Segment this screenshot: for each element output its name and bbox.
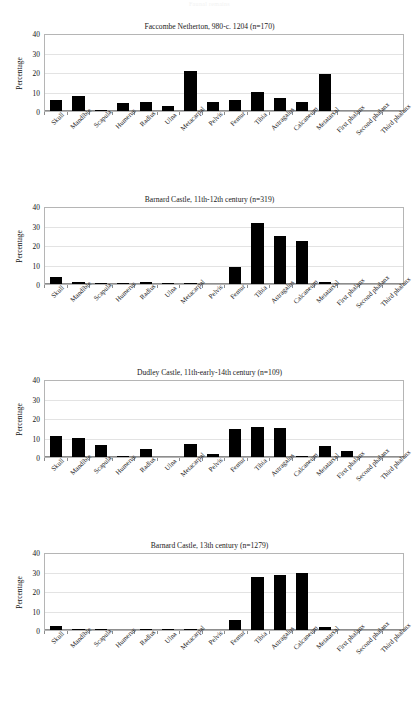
bar [296, 241, 308, 284]
x-label-slot: Ulna [157, 288, 180, 341]
plot-row: Percentage010203040SkullMandibleScapulaH… [0, 553, 419, 635]
bar-slot [112, 381, 134, 457]
bar [50, 100, 62, 111]
bar-slot [291, 35, 313, 111]
x-label-slot: Radius [134, 634, 157, 687]
bar-slot [336, 381, 358, 457]
bar [319, 446, 331, 457]
x-label-slot: Calcaneum [292, 461, 315, 514]
bar-slot [224, 381, 246, 457]
bar-slot [381, 208, 403, 284]
x-label-slot: Humerus [112, 634, 135, 687]
chart-block-3: Barnard Castle, 13th century (n=1279)Per… [0, 541, 419, 635]
bar [296, 102, 308, 112]
bar-slot [336, 554, 358, 630]
x-label-slot: Metatarsal [314, 115, 337, 168]
bar [207, 102, 219, 111]
x-label-slot: Pelvis [202, 461, 225, 514]
bar-slot [90, 35, 112, 111]
bar [50, 436, 62, 457]
bar-slot [314, 35, 336, 111]
x-label-slot: Ulna [157, 461, 180, 514]
chart-title: Dudley Castle, 11th-early-14th century (… [0, 368, 419, 378]
x-label-slot: Second phalanx [359, 115, 382, 168]
bar-series [45, 208, 403, 284]
bar [184, 444, 196, 457]
bar-slot [224, 554, 246, 630]
bar [319, 74, 331, 111]
x-label-slot: Skull [44, 288, 67, 341]
bar-slot [90, 208, 112, 284]
x-axis-labels: SkullMandibleScapulaHumerusRadiusUlnaMet… [44, 461, 404, 514]
bar-slot [112, 554, 134, 630]
y-tick-label: 0 [36, 282, 40, 289]
x-label-slot: Ulna [157, 634, 180, 687]
bar-slot [135, 381, 157, 457]
x-axis: SkullMandibleScapulaHumerusRadiusUlnaMet… [44, 112, 404, 168]
y-tick-label: 30 [33, 223, 40, 230]
bar-slot [45, 554, 67, 630]
plot-row: Percentage010203040SkullMandibleScapulaH… [0, 207, 419, 289]
x-label-slot: Femur [224, 634, 247, 687]
y-tick-label: 30 [33, 569, 40, 576]
x-label-slot: Tibia [247, 288, 270, 341]
plot-area [44, 207, 404, 285]
y-tick-label: 20 [33, 243, 40, 250]
bar [341, 451, 353, 457]
y-tick-label: 10 [33, 608, 40, 615]
x-label-slot: Calcaneum [292, 115, 315, 168]
chart-title: Barnard Castle, 13th century (n=1279) [0, 541, 419, 551]
bar [274, 236, 286, 284]
plot-row: Percentage010203040SkullMandibleScapulaH… [0, 380, 419, 462]
bar-slot [314, 208, 336, 284]
x-axis-labels: SkullMandibleScapulaHumerusRadiusUlnaMet… [44, 115, 404, 168]
x-axis: SkullMandibleScapulaHumerusRadiusUlnaMet… [44, 458, 404, 514]
x-label-slot: Metacarpal [179, 288, 202, 341]
y-tick-label: 30 [33, 50, 40, 57]
bar-slot [381, 381, 403, 457]
x-label-slot: Tibia [247, 461, 270, 514]
bar-slot [157, 381, 179, 457]
y-tick-label: 20 [33, 589, 40, 596]
bar-slot [179, 35, 201, 111]
x-label-slot: Skull [44, 115, 67, 168]
x-label-slot: Femur [224, 115, 247, 168]
bar [229, 267, 241, 284]
bar-slot [381, 35, 403, 111]
y-tick-label: 0 [36, 628, 40, 635]
x-axis-labels: SkullMandibleScapulaHumerusRadiusUlnaMet… [44, 634, 404, 687]
bar [72, 438, 84, 457]
x-label-slot: Humerus [112, 461, 135, 514]
bar-slot [269, 554, 291, 630]
bar [184, 71, 196, 111]
bar-slot [246, 554, 268, 630]
bar-slot [246, 35, 268, 111]
chart-block-0: Faccombe Netherton, 980-c. 1204 (n=170)P… [0, 22, 419, 116]
bar-slot [224, 35, 246, 111]
plot-area [44, 380, 404, 458]
bar [274, 428, 286, 457]
bar-slot [358, 381, 380, 457]
x-label-slot: Humerus [112, 115, 135, 168]
bar-slot [246, 208, 268, 284]
bar-slot [67, 381, 89, 457]
x-label-slot: Scapula [89, 461, 112, 514]
y-tick-label: 0 [36, 455, 40, 462]
bar-slot [135, 35, 157, 111]
bar-slot [179, 554, 201, 630]
bar-slot [269, 208, 291, 284]
bar [274, 575, 286, 630]
x-label-slot: Pelvis [202, 288, 225, 341]
y-axis-ticks: 010203040 [22, 207, 42, 285]
bar-slot [314, 381, 336, 457]
bar-slot [358, 35, 380, 111]
x-label-slot: Humerus [112, 288, 135, 341]
x-label-slot: Scapula [89, 634, 112, 687]
x-label-slot: Second phalanx [359, 634, 382, 687]
x-label-slot: Astragalus [269, 115, 292, 168]
x-label-slot: Pelvis [202, 634, 225, 687]
x-label-slot: Mandible [67, 461, 90, 514]
y-tick-label: 0 [36, 109, 40, 116]
figure-page: Faunal remains Faccombe Netherton, 980-c… [0, 0, 419, 704]
bar-slot [291, 208, 313, 284]
